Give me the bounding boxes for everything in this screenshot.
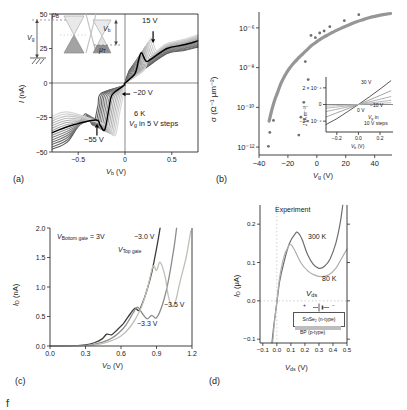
y-tick-label: 0.0	[247, 297, 256, 304]
x-tick-label: 0.6	[116, 350, 126, 357]
panel-d-xlabel: Vds (V)	[285, 364, 308, 373]
annotation-80k: 80 K	[322, 275, 336, 283]
vg-sub: g	[32, 37, 35, 42]
inset-gate-steps-line2: 10 V steps	[364, 121, 388, 127]
inset-ylabel: J (A m⁻²)	[303, 106, 309, 127]
muT-label: μT	[99, 46, 106, 55]
inset-label-minus10v: −10 V	[370, 103, 383, 109]
annotation-temperature: 6 K	[134, 110, 145, 118]
x-tick-label: 0.0	[273, 346, 282, 353]
data-point	[272, 119, 275, 122]
vd-axis-unit: (V)	[111, 361, 123, 370]
x-tick-label: −0.1	[257, 346, 270, 353]
panel-letter-a: (a)	[13, 175, 24, 185]
battery-minus: −	[332, 303, 335, 309]
panel-b-xlabel: Vg (V)	[313, 172, 333, 181]
panel-letter-c: (c)	[15, 377, 26, 387]
x-tick-label: −0.2	[332, 135, 342, 141]
y-tick-label: −0.1	[243, 335, 256, 342]
inset-label-0v: 0 V	[357, 108, 365, 114]
panel-d-ylabel: ID (μA)	[233, 275, 242, 297]
annotation-bottom-gate: VBottom gate = 3V	[57, 233, 105, 242]
y-tick-label: 1.5	[36, 254, 46, 261]
y-tick-label: 10⁻¹²	[237, 143, 255, 152]
annotation-experiment: Experiment	[275, 206, 310, 214]
data-point	[310, 34, 313, 37]
x-tick-label: −40	[253, 159, 266, 168]
data-point	[357, 13, 360, 16]
panel-letter-d: (d)	[209, 377, 220, 387]
panel-b: −40−200204010⁻⁶10⁻⁸10⁻¹⁰10⁻¹² −0.20.00.2…	[203, 0, 407, 200]
snse2-name: SnSe	[303, 316, 315, 322]
x-tick-label: −0.5	[71, 156, 85, 163]
id-unit-c: (nA)	[11, 284, 20, 300]
x-tick-label: −20	[282, 159, 295, 168]
y-tick-label: 0.2	[247, 220, 256, 227]
y-tick-label: 0.5	[36, 313, 46, 320]
snse2-type: (n-type)	[317, 316, 336, 322]
x-tick-label: 0.2	[301, 346, 310, 353]
data-point	[318, 32, 321, 35]
panel-letter-b: (b)	[216, 175, 227, 185]
annotation-arrowhead	[151, 39, 155, 43]
panel-b-ylabel: σ (Ω⁻¹ μm⁻²)	[210, 77, 219, 122]
annotation-minus20v: −20 V	[133, 89, 153, 97]
stray-caption-glyph: f	[6, 397, 9, 409]
data-point	[328, 25, 331, 28]
y-tick-label: 1.0	[36, 284, 46, 291]
vb-arrowhead-up	[114, 20, 118, 24]
y-tick-label: 2.0	[36, 225, 46, 232]
dirac-cone-left-bottom	[64, 35, 84, 53]
panel-a: −0.500.550250−25−50 μB Vg μT Vb I (nA) V	[0, 0, 204, 200]
bp-label: BP (p-type)	[300, 330, 325, 336]
id-symbol-d: I	[232, 295, 241, 297]
id-sub-d: D	[235, 291, 241, 295]
id-symbol-c: I	[11, 304, 20, 306]
panel-c-ylabel: ID (nA)	[12, 284, 21, 306]
ground-symbol	[30, 58, 46, 64]
x-tick-label: 0.5	[343, 346, 352, 353]
data-point	[268, 131, 271, 134]
annotation-top-gate: VTop gate	[118, 246, 141, 255]
y-tick-label: −50	[36, 149, 48, 156]
x-tick-label: 0.3	[315, 346, 324, 353]
y-tick-label: 10⁻⁶	[239, 24, 254, 33]
vds-bias-sub: ds	[311, 292, 317, 298]
panel-d: −0.10.00.10.20.30.40.50.20.10.0−0.1 ID (…	[203, 200, 407, 395]
vb-label: Vb	[103, 25, 110, 34]
x-tick-label: 0	[123, 156, 127, 163]
y-tick-label: 10⁻¹⁰	[237, 103, 255, 112]
x-tick-label: 0.1	[287, 346, 296, 353]
inset-xlabel: Vb (V)	[351, 144, 364, 151]
inset-label-30v: 30 V	[361, 80, 371, 86]
x-tick-label: 0.4	[329, 346, 338, 353]
x-tick-label: 0.2	[377, 135, 384, 141]
vg-label: Vg	[27, 34, 34, 43]
y-tick-label: 10⁻⁸	[239, 63, 255, 72]
topgate-sub: Top gate	[123, 249, 142, 254]
y-tick-label: 2 × 10⁻⁶	[302, 85, 321, 91]
muB-sub: B	[56, 14, 59, 19]
y-tick-label: 0.0	[36, 343, 46, 350]
panel-b-inset-plot: −0.20.00.22 × 10⁻⁶0−2 × 10⁻⁶	[299, 70, 407, 152]
x-tick-label: 0.5	[167, 156, 177, 163]
muT-sub: T	[103, 49, 106, 54]
id-unit-d: (μA)	[232, 275, 241, 291]
current-unit: (nA)	[17, 85, 26, 101]
vds-axis-unit: (V)	[296, 363, 308, 372]
dirac-cone-left-top	[64, 16, 84, 35]
id-sub-c: D	[14, 300, 20, 304]
inset-vb-unit: (V)	[356, 143, 364, 149]
annotation-vds: Vds	[306, 290, 317, 299]
x-tick-label: 40	[370, 159, 378, 168]
panel-c: 0.00.30.60.91.20.00.51.01.52.0 ID (nA) V…	[0, 200, 204, 395]
x-tick-label: 0.0	[45, 350, 55, 357]
annotation-minus3-3v: −3.3 V	[137, 320, 157, 328]
steps-rest: in 5 V steps	[137, 119, 178, 128]
vb-sub: b	[108, 28, 111, 33]
vg-arrowhead-up	[35, 19, 39, 23]
data-point	[323, 30, 326, 33]
data-point	[314, 36, 317, 39]
bottomgate-rest: = 3V	[88, 233, 105, 240]
battery-icon	[311, 303, 331, 312]
